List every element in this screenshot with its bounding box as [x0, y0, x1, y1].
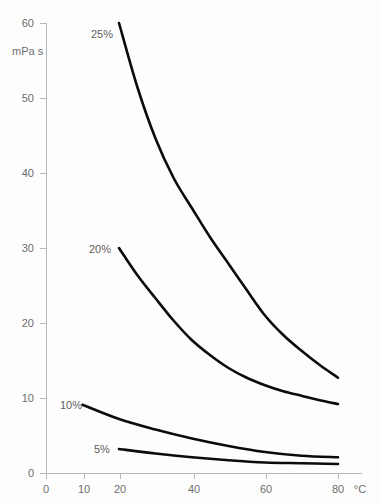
x-tick-label-20: 20 [114, 483, 126, 495]
x-tick-label-10: 10 [78, 483, 90, 495]
series-label-10: 10% [60, 399, 82, 411]
y-tick-label-40: 40 [22, 167, 34, 179]
x-tick-label-40: 40 [188, 483, 200, 495]
x-axis-tick-labels: 0 10 20 40 60 80 [43, 483, 344, 495]
curve-25pct [119, 23, 338, 378]
x-tick-label-80: 80 [332, 483, 344, 495]
y-axis-tick-labels: 60 50 40 30 20 10 0 [22, 17, 34, 479]
x-tick-label-60: 60 [260, 483, 272, 495]
y-tick-label-30: 30 [22, 242, 34, 254]
x-tick-label-0: 0 [43, 483, 49, 495]
y-tick-label-10: 10 [22, 392, 34, 404]
curves-group [83, 23, 339, 464]
series-label-5: 5% [94, 443, 110, 455]
series-labels: 25% 20% 10% 5% [60, 28, 113, 455]
series-label-20: 20% [89, 243, 111, 255]
chart-svg: 60 50 40 30 20 10 0 mPa s 0 10 20 40 60 … [0, 0, 380, 504]
y-tick-label-60: 60 [22, 17, 34, 29]
y-tick-label-50: 50 [22, 92, 34, 104]
viscosity-temperature-chart: 60 50 40 30 20 10 0 mPa s 0 10 20 40 60 … [0, 0, 380, 504]
x-axis-title: °C [354, 483, 366, 495]
y-tick-label-20: 20 [22, 317, 34, 329]
y-axis-ticks [40, 23, 46, 473]
y-axis-title: mPa s [12, 45, 44, 57]
curve-20pct [119, 248, 338, 404]
y-tick-label-0: 0 [28, 467, 34, 479]
x-axis-ticks [46, 473, 338, 479]
series-label-25: 25% [91, 28, 113, 40]
